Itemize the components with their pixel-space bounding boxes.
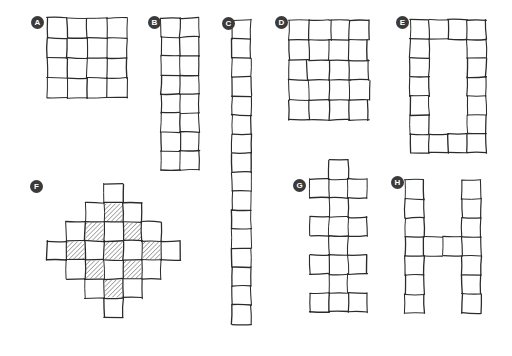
figure-label-h: H [391,176,404,189]
figure-h [399,174,487,319]
figure-f [41,178,186,323]
figure-label-a: A [31,16,44,29]
figure-g [304,154,373,318]
figure-d [283,14,375,126]
figure-a [41,12,133,104]
figure-c [226,14,257,330]
figure-label-f: F [30,180,43,193]
figure-label-d: D [275,16,288,29]
figure-label-c: C [222,17,235,30]
figure-label-b: B [148,16,161,29]
figure-e [404,14,492,159]
figure-label-e: E [396,16,409,29]
figure-board: ABCDEFGH [0,0,512,356]
figure-label-g: G [293,179,306,192]
figure-b [155,12,205,176]
